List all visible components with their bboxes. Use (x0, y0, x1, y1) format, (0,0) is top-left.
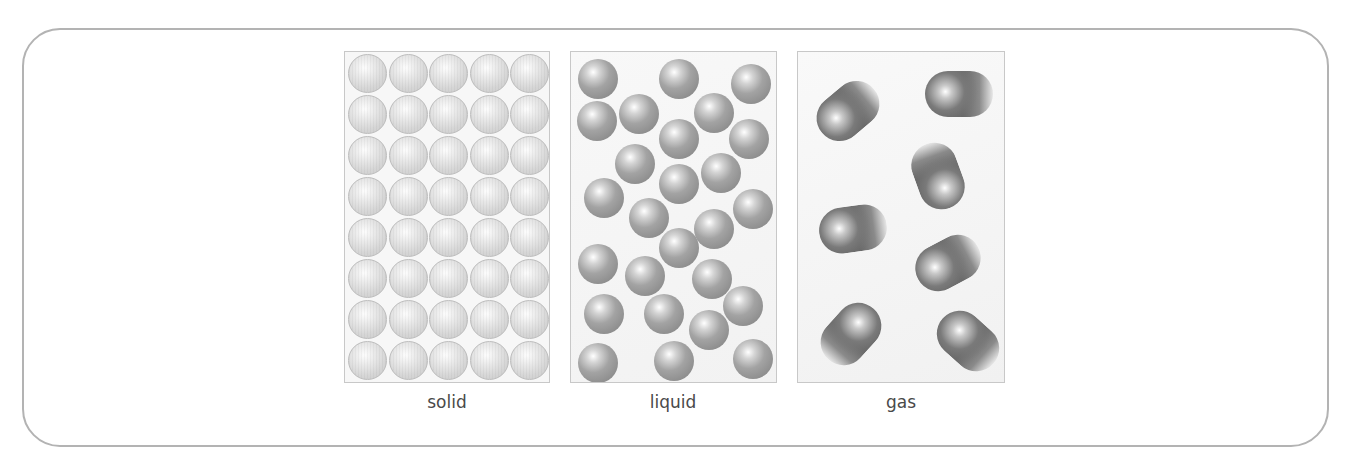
liquid-particle (584, 178, 624, 218)
solid-particle (429, 95, 468, 134)
solid-particle (429, 218, 468, 257)
solid-particle (470, 259, 509, 298)
liquid-particle (584, 294, 624, 334)
solid-particle (389, 177, 428, 216)
liquid-particle (723, 286, 763, 326)
solid-particle (510, 218, 549, 257)
solid-particle (429, 259, 468, 298)
liquid-particle (625, 256, 665, 296)
solid-particle (510, 259, 549, 298)
solid-particle (389, 54, 428, 93)
liquid-particle (659, 59, 699, 99)
solid-particle (348, 218, 387, 257)
liquid-particle (578, 244, 618, 284)
solid-particle (470, 54, 509, 93)
liquid-particle (731, 64, 771, 104)
liquid-particle (659, 228, 699, 268)
liquid-particle (729, 119, 769, 159)
liquid-particle (654, 341, 694, 381)
liquid-particle (659, 119, 699, 159)
solid-particle (510, 341, 549, 380)
solid-particle (510, 300, 549, 339)
solid-particle (470, 177, 509, 216)
solid-particle (389, 95, 428, 134)
solid-particle (389, 218, 428, 257)
liquid-particle (694, 93, 734, 133)
gas-particle (927, 301, 1005, 381)
gas-particle (907, 227, 989, 300)
solid-particle (348, 341, 387, 380)
solid-particle (429, 177, 468, 216)
gas-particle (905, 136, 971, 216)
solid-particle (348, 95, 387, 134)
gas-particle (925, 71, 993, 117)
solid-particle (389, 300, 428, 339)
solid-particle (429, 136, 468, 175)
gas-particle (807, 72, 889, 151)
gas-particle (816, 201, 890, 256)
gas-particle (811, 293, 891, 374)
liquid-particle (578, 59, 618, 99)
liquid-particle (694, 209, 734, 249)
liquid-particle (619, 94, 659, 134)
solid-panel (344, 51, 550, 383)
liquid-particle (615, 144, 655, 184)
gas-panel (797, 51, 1005, 383)
solid-particle (389, 259, 428, 298)
solid-particle (348, 136, 387, 175)
solid-particle (470, 300, 509, 339)
liquid-label: liquid (570, 392, 776, 412)
solid-particle (510, 54, 549, 93)
solid-particle (348, 177, 387, 216)
liquid-particle (701, 153, 741, 193)
solid-particle (470, 95, 509, 134)
liquid-particle (733, 189, 773, 229)
liquid-particle (733, 339, 773, 379)
liquid-panel (570, 51, 777, 383)
solid-particle (389, 136, 428, 175)
solid-particle (510, 95, 549, 134)
solid-particle (429, 341, 468, 380)
solid-particle (429, 300, 468, 339)
liquid-particle (644, 294, 684, 334)
liquid-particle (578, 343, 618, 383)
solid-particle (510, 136, 549, 175)
gas-label: gas (798, 392, 1004, 412)
solid-particle (389, 341, 428, 380)
solid-particle (348, 300, 387, 339)
solid-particle (429, 54, 468, 93)
solid-particle (470, 218, 509, 257)
solid-particle (510, 177, 549, 216)
solid-particle (348, 54, 387, 93)
solid-label: solid (344, 392, 550, 412)
solid-particle (470, 136, 509, 175)
liquid-particle (629, 198, 669, 238)
liquid-particle (659, 164, 699, 204)
liquid-particle (577, 101, 617, 141)
liquid-particle (689, 310, 729, 350)
solid-particle (348, 259, 387, 298)
solid-particle (470, 341, 509, 380)
